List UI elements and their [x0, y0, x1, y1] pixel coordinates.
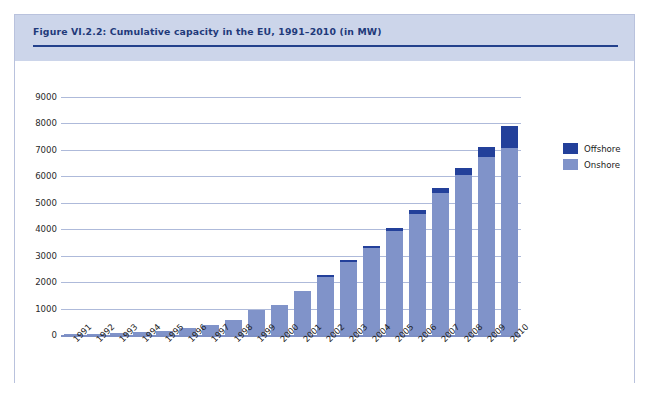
chart-legend: OffshoreOnshore: [563, 143, 635, 175]
bar-1997[interactable]: [202, 97, 219, 335]
gridline-8000: [61, 123, 521, 124]
bar-segment-offshore: [432, 188, 449, 194]
y-tick-label-8000: 8000: [17, 118, 57, 128]
bar-1996[interactable]: [179, 97, 196, 335]
bar-segment-onshore: [455, 175, 472, 335]
bar-2007[interactable]: [432, 97, 449, 335]
y-tick-label-2000: 2000: [17, 277, 57, 287]
bar-2003[interactable]: [340, 97, 357, 335]
bar-2002[interactable]: [317, 97, 334, 335]
chart-plot-area: [61, 97, 521, 335]
bar-segment-offshore: [501, 126, 518, 148]
gridline-2000: [61, 282, 521, 283]
legend-label: Offshore: [584, 144, 621, 154]
legend-item-onshore[interactable]: Onshore: [563, 159, 635, 170]
bar-2006[interactable]: [409, 97, 426, 335]
bar-segment-offshore: [317, 275, 334, 277]
bar-segment-offshore: [409, 210, 426, 214]
figure-header-band: Figure VI.2.2: Cumulative capacity in th…: [15, 15, 634, 61]
y-axis-tick-labels: 0100020003000400050006000700080009000: [15, 97, 57, 335]
y-tick-label-4000: 4000: [17, 224, 57, 234]
bar-segment-onshore: [386, 231, 403, 335]
bar-1993[interactable]: [110, 97, 127, 335]
y-tick-label-6000: 6000: [17, 171, 57, 181]
gridline-9000: [61, 97, 521, 98]
bar-2008[interactable]: [455, 97, 472, 335]
bar-segment-offshore: [363, 246, 380, 248]
legend-swatch-icon: [563, 143, 578, 154]
bar-2005[interactable]: [386, 97, 403, 335]
bar-2000[interactable]: [271, 97, 288, 335]
y-tick-label-5000: 5000: [17, 198, 57, 208]
y-tick-label-0: 0: [17, 330, 57, 340]
legend-swatch-icon: [563, 159, 578, 170]
plot-wrapper: 0100020003000400050006000700080009000 19…: [15, 61, 634, 384]
bar-2004[interactable]: [363, 97, 380, 335]
bar-2010[interactable]: [501, 97, 518, 335]
bar-1991[interactable]: [64, 97, 81, 335]
y-tick-label-3000: 3000: [17, 251, 57, 261]
gridline-6000: [61, 176, 521, 177]
bar-1995[interactable]: [156, 97, 173, 335]
y-tick-label-1000: 1000: [17, 304, 57, 314]
bar-segment-onshore: [501, 148, 518, 335]
bar-1999[interactable]: [248, 97, 265, 335]
legend-item-offshore[interactable]: Offshore: [563, 143, 635, 154]
legend-label: Onshore: [584, 160, 620, 170]
bar-segment-offshore: [455, 168, 472, 175]
x-axis-tick-labels: 1991199219931994199519961997199819992000…: [61, 337, 521, 383]
bar-1994[interactable]: [133, 97, 150, 335]
bar-2001[interactable]: [294, 97, 311, 335]
gridline-7000: [61, 150, 521, 151]
bar-segment-offshore: [386, 228, 403, 231]
bar-segment-onshore: [363, 248, 380, 335]
gridline-3000: [61, 256, 521, 257]
gridline-1000: [61, 309, 521, 310]
bar-1992[interactable]: [87, 97, 104, 335]
bar-segment-offshore: [340, 260, 357, 262]
bar-segment-onshore: [432, 193, 449, 335]
figure-container: Figure VI.2.2: Cumulative capacity in th…: [14, 14, 635, 383]
bar-segment-offshore: [478, 147, 495, 157]
gridline-5000: [61, 203, 521, 204]
bar-2009[interactable]: [478, 97, 495, 335]
title-underline-rule: [33, 45, 618, 47]
y-tick-label-7000: 7000: [17, 145, 57, 155]
bar-1998[interactable]: [225, 97, 242, 335]
bar-segment-onshore: [478, 157, 495, 335]
y-tick-label-9000: 9000: [17, 92, 57, 102]
figure-title: Figure VI.2.2: Cumulative capacity in th…: [33, 26, 382, 37]
gridline-4000: [61, 229, 521, 230]
bar-segment-onshore: [409, 214, 426, 335]
